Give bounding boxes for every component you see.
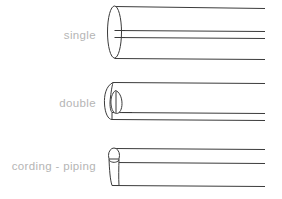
single-flange-bottom-edge: [115, 38, 266, 39]
double-top-edge: [113, 83, 265, 84]
double-bottom-edge: [112, 120, 265, 121]
single-flange-top-edge: [115, 31, 266, 32]
cording-piping-drawing: [0, 132, 282, 199]
single-welt-svg: [0, 0, 282, 70]
single-top-edge: [115, 7, 266, 9]
diagram-row-cording: cording - piping: [0, 132, 282, 199]
single-welt-drawing: [0, 0, 282, 70]
double-flange-top-edge: [112, 113, 265, 114]
single-bottom-edge: [115, 59, 266, 60]
cording-seam-edge: [114, 163, 265, 164]
cording-flange-end: [109, 159, 119, 186]
single-end-cap-ellipse: [108, 6, 122, 58]
cording-bottom-edge: [112, 186, 265, 187]
diagram-row-single: single: [0, 0, 282, 70]
cording-top-edge: [114, 149, 265, 150]
double-welt-drawing: [0, 70, 282, 132]
welt-types-diagram: single double: [0, 0, 282, 199]
cording-piping-svg: [0, 132, 282, 199]
diagram-row-double: double: [0, 70, 282, 132]
double-welt-svg: [0, 70, 282, 132]
